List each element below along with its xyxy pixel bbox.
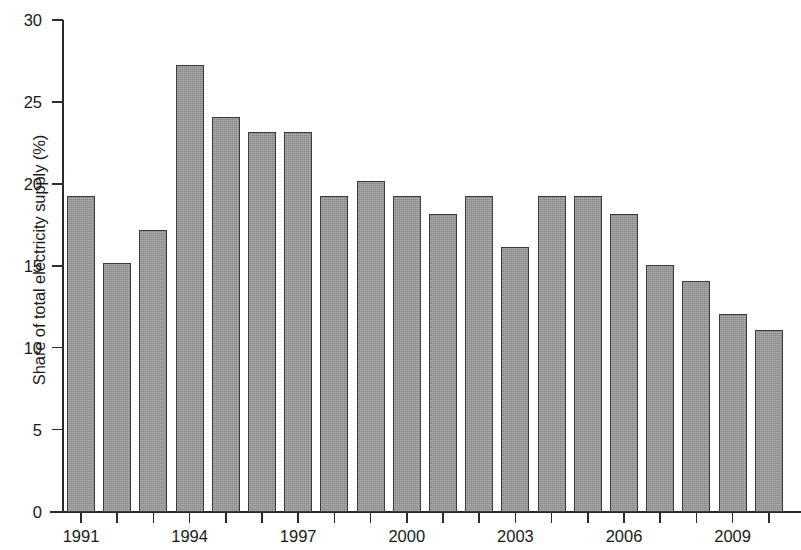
x-axis-tick [153,512,155,523]
bar [538,196,566,512]
x-axis-tick [189,512,191,523]
bar [574,196,602,512]
x-axis-tick [732,512,734,523]
bar [755,330,783,512]
bar [139,230,167,512]
bar [610,214,638,512]
x-axis-tick [478,512,480,523]
x-axis-tick [515,512,517,523]
bar [682,281,710,512]
x-axis-tick [696,512,698,523]
bar [465,196,493,512]
x-axis-tick-label: 1997 [280,527,317,546]
x-axis-tick [261,512,263,523]
bar [67,196,95,512]
x-axis-tick-label: 1994 [171,527,208,546]
x-axis-tick [442,512,444,523]
x-axis-tick-label: 2000 [388,527,425,546]
x-axis-tick-label: 2009 [714,527,751,546]
x-axis-tick [659,512,661,523]
x-axis-tick [587,512,589,523]
bar [393,196,421,512]
x-axis-tick [225,512,227,523]
bar [248,132,276,512]
x-axis-tick [297,512,299,523]
x-axis-tick [623,512,625,523]
bar [212,117,240,512]
bar [320,196,348,512]
x-axis-tick [334,512,336,523]
bar [284,132,312,512]
bar [176,65,204,512]
x-axis-tick [370,512,372,523]
x-axis-tick-label: 2006 [606,527,643,546]
bar [357,181,385,512]
x-axis-tick-label: 1991 [63,527,100,546]
x-axis-tick [768,512,770,523]
bar [719,314,747,512]
bar [646,265,674,512]
bars-layer [0,0,801,512]
x-axis-tick [551,512,553,523]
bar [103,263,131,512]
x-axis-tick [80,512,82,523]
bar [429,214,457,512]
x-axis-tick-label: 2003 [497,527,534,546]
bar-chart: Share of total electricity supply (%) 05… [0,0,801,550]
x-axis-tick [116,512,118,523]
x-axis-tick [406,512,408,523]
bar [501,247,529,512]
